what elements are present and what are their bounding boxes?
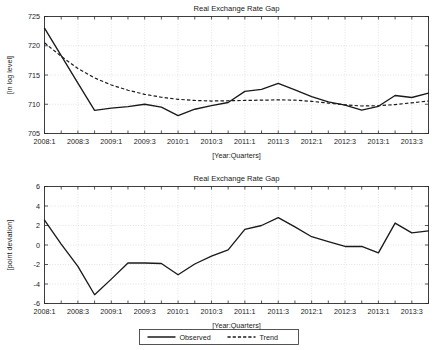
x-tick-label: 2009:1: [100, 307, 122, 316]
x-tick-label: 2010:3: [200, 307, 222, 316]
x-tick-label: 2013:1: [367, 307, 389, 316]
x-tick-label: 2010:1: [167, 137, 189, 146]
y-tick-label: 720: [28, 41, 40, 50]
figure-real-exchange-rate-gap: Real Exchange Rate Gap705710715720725200…: [0, 0, 438, 350]
x-tick-label: 2013:3: [401, 137, 423, 146]
y-tick-label: 0: [36, 241, 40, 250]
x-tick-label: 2013:1: [367, 137, 389, 146]
x-axis-label-0: [Year:Quarters]: [212, 151, 260, 160]
y-axis-label-0: [in log level]: [5, 56, 14, 94]
x-tick-label: 2011:1: [234, 307, 255, 316]
x-tick-label: 2009:1: [100, 137, 122, 146]
x-tick-label: 2011:3: [268, 137, 289, 146]
x-tick-label: 2012:1: [301, 307, 323, 316]
x-tick-label: 2013:3: [401, 307, 423, 316]
x-axis-label-1: [Year:Quarters]: [212, 321, 260, 330]
y-tick-label: 2: [36, 221, 40, 230]
x-tick-label: 2009:3: [134, 137, 156, 146]
chart-title-1: Real Exchange Rate Gap: [193, 174, 279, 183]
y-tick-label: 6: [36, 182, 40, 191]
series-observed-1: [45, 218, 429, 295]
x-tick-label: 2010:3: [200, 137, 222, 146]
x-tick-label: 2009:3: [134, 307, 156, 316]
x-tick-label: 2011:1: [234, 137, 255, 146]
legend-label-trend: Trend: [260, 333, 279, 342]
chart-title-0: Real Exchange Rate Gap: [193, 4, 279, 13]
y-tick-label: 715: [28, 71, 40, 80]
x-tick-label: 2008:3: [67, 137, 89, 146]
x-tick-label: 2008:3: [67, 307, 89, 316]
chart-canvas: Real Exchange Rate Gap705710715720725200…: [0, 0, 438, 350]
x-tick-label: 2008:1: [34, 137, 56, 146]
x-tick-label: 2012:3: [334, 137, 356, 146]
y-tick-label: -4: [34, 280, 40, 289]
y-axis-label-1: [point deviation]: [5, 220, 14, 270]
x-tick-label: 2012:1: [301, 137, 323, 146]
x-tick-label: 2011:3: [268, 307, 289, 316]
x-tick-label: 2008:1: [34, 307, 56, 316]
legend-label-observed: Observed: [180, 333, 211, 342]
series-observed-0: [45, 28, 429, 115]
y-tick-label: 710: [28, 100, 40, 109]
y-tick-label: 4: [36, 202, 40, 211]
y-tick-label: -2: [34, 260, 40, 269]
x-tick-label: 2010:1: [167, 307, 189, 316]
y-tick-label: 725: [28, 12, 40, 21]
x-tick-label: 2012:3: [334, 307, 356, 316]
